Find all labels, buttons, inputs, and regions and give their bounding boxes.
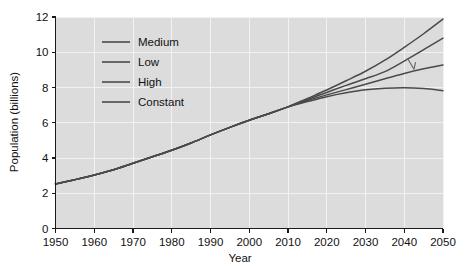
y-tick-label: 12 xyxy=(36,11,49,23)
x-axis-tick-labels: 1950196019701980199020002010202020302040… xyxy=(43,236,456,248)
x-tick-label: 1970 xyxy=(120,236,146,248)
x-tick-label: 2040 xyxy=(391,236,417,248)
y-tick-label: 4 xyxy=(42,152,49,164)
x-axis-ticks xyxy=(56,229,444,233)
y-axis-ticks xyxy=(52,17,56,229)
x-tick-label: 2000 xyxy=(236,236,262,248)
legend-label: Constant xyxy=(138,96,185,108)
legend-label: High xyxy=(138,76,162,88)
y-tick-label: 8 xyxy=(42,82,48,94)
x-tick-label: 2010 xyxy=(275,236,301,248)
x-axis-title: Year xyxy=(228,252,251,264)
y-tick-label: 6 xyxy=(42,117,48,129)
y-tick-label: 0 xyxy=(42,223,48,235)
y-axis-title: Population (billions) xyxy=(8,72,20,173)
y-tick-label: 2 xyxy=(42,187,48,199)
x-tick-label: 2020 xyxy=(314,236,340,248)
x-tick-label: 1990 xyxy=(198,236,224,248)
population-projection-chart: 024681012 195019601970198019902000201020… xyxy=(0,0,463,277)
legend-label: Low xyxy=(138,56,160,68)
y-tick-label: 10 xyxy=(36,46,49,58)
x-tick-label: 1980 xyxy=(159,236,185,248)
x-tick-label: 2050 xyxy=(430,236,456,248)
y-axis-tick-labels: 024681012 xyxy=(36,11,49,235)
x-tick-label: 2030 xyxy=(353,236,379,248)
legend-label: Medium xyxy=(138,36,179,48)
x-tick-label: 1960 xyxy=(81,236,107,248)
chart-canvas: 024681012 195019601970198019902000201020… xyxy=(0,0,463,277)
x-tick-label: 1950 xyxy=(43,236,69,248)
